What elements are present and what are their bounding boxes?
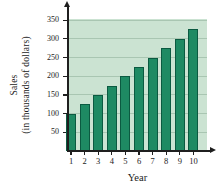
bar-year-2: [80, 104, 90, 151]
gridline-y350: [68, 20, 207, 21]
x-tick-label: 8: [159, 156, 173, 166]
bar-year-5: [120, 76, 130, 151]
x-tick-label: 7: [146, 156, 160, 166]
y-axis-line: [67, 6, 69, 152]
x-tick-label: 2: [78, 156, 92, 166]
y-tick-label: 200: [35, 71, 59, 81]
plot-area: 5010015020025030035012345678910: [0, 0, 218, 191]
bar-year-7: [148, 58, 158, 152]
y-tick-label: 100: [35, 109, 59, 119]
bar-year-4: [107, 86, 117, 151]
gridline-y250: [68, 57, 207, 58]
y-tick-label: 300: [35, 34, 59, 44]
x-tick-label: 3: [91, 156, 105, 166]
x-axis-line: [67, 150, 211, 152]
bar-year-10: [188, 29, 198, 151]
bar-year-9: [175, 39, 185, 151]
y-tick-label: 150: [35, 90, 59, 100]
bar-chart-figure: Sales (in thousands of dollars) 50100150…: [0, 0, 218, 191]
bar-year-6: [134, 67, 144, 151]
x-tick-label: 6: [132, 156, 146, 166]
x-axis-label: Year: [68, 172, 207, 183]
y-axis-arrow-icon: [64, 1, 70, 7]
y-tick-label: 350: [35, 15, 59, 25]
x-tick-label: 5: [118, 156, 132, 166]
bar-year-3: [93, 95, 103, 151]
y-tick-label: 250: [35, 53, 59, 63]
x-tick-label: 4: [105, 156, 119, 166]
x-axis-arrow-icon: [210, 147, 216, 153]
x-tick-label: 1: [64, 156, 78, 166]
gridline-y300: [68, 38, 207, 39]
y-tick-label: 50: [35, 127, 59, 137]
x-tick-label: 9: [173, 156, 187, 166]
x-tick-label: 10: [186, 156, 200, 166]
bar-year-8: [161, 48, 171, 151]
